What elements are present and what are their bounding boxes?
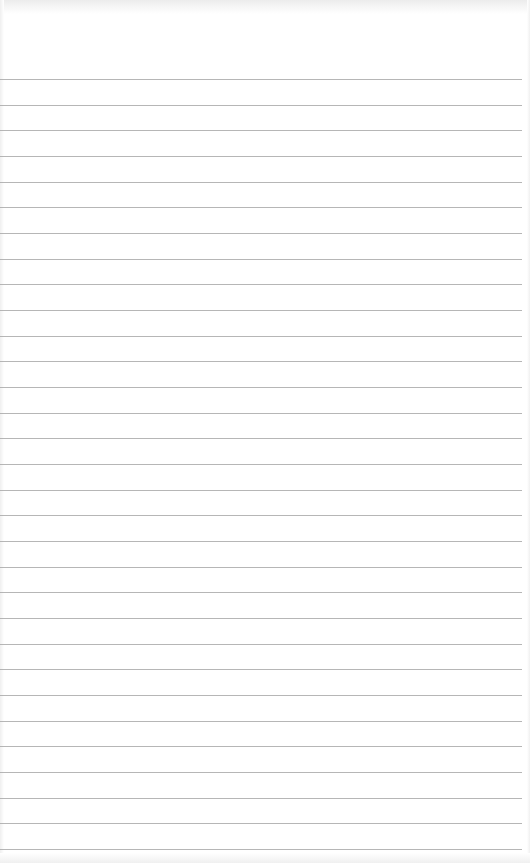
ruled-line bbox=[0, 233, 522, 234]
ruled-line bbox=[0, 772, 522, 773]
ruled-line bbox=[0, 669, 522, 670]
ruled-line bbox=[0, 130, 522, 131]
ruled-line bbox=[0, 79, 522, 80]
ruled-line bbox=[0, 618, 522, 619]
ruled-line bbox=[0, 541, 522, 542]
ruled-line bbox=[0, 182, 522, 183]
ruled-line bbox=[0, 746, 522, 747]
ruled-line bbox=[0, 823, 522, 824]
ruled-line bbox=[0, 336, 522, 337]
ruled-line bbox=[0, 567, 522, 568]
paper-top-edge bbox=[0, 0, 530, 14]
lined-paper-page bbox=[0, 0, 530, 863]
ruled-line bbox=[0, 105, 522, 106]
ruled-line bbox=[0, 284, 522, 285]
ruled-line bbox=[0, 464, 522, 465]
ruled-line bbox=[0, 413, 522, 414]
ruled-line bbox=[0, 721, 522, 722]
ruled-line bbox=[0, 361, 522, 362]
ruled-line bbox=[0, 310, 522, 311]
ruled-line bbox=[0, 798, 522, 799]
ruled-line bbox=[0, 156, 522, 157]
ruled-line bbox=[0, 259, 522, 260]
paper-bottom-edge bbox=[0, 853, 530, 863]
ruled-line bbox=[0, 387, 522, 388]
ruled-line bbox=[0, 490, 522, 491]
ruled-line bbox=[0, 207, 522, 208]
ruled-line bbox=[0, 515, 522, 516]
ruled-line bbox=[0, 438, 522, 439]
ruled-line bbox=[0, 695, 522, 696]
ruled-line bbox=[0, 849, 522, 850]
ruled-line bbox=[0, 644, 522, 645]
ruled-line bbox=[0, 592, 522, 593]
